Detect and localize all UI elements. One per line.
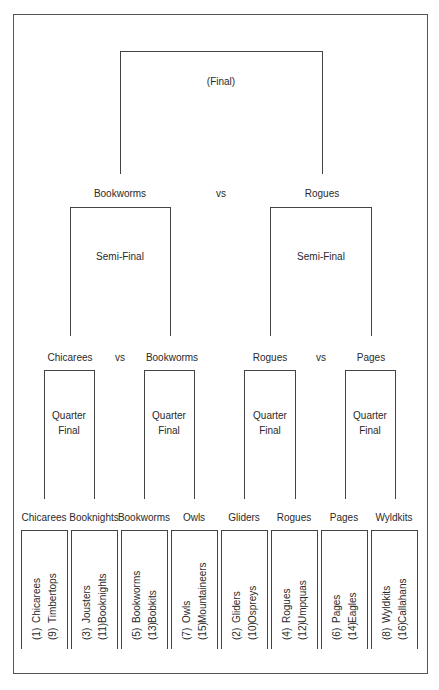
round1-winner-7: Pages — [330, 512, 358, 523]
round1-entry-8a: (8)Wyldkits — [379, 586, 395, 640]
quarter-label-3: QuarterFinal — [253, 408, 287, 438]
quarter-label-1: QuarterFinal — [52, 408, 86, 438]
round1-winner-4: Owls — [183, 512, 205, 523]
semi-bracket-left — [70, 207, 171, 336]
round1-entry-6a: (4)Rogues — [279, 589, 295, 640]
round1-entry-1a: (1)Chicarees — [29, 578, 45, 640]
quarter-label-4: QuarterFinal — [353, 408, 387, 438]
semi-left-team-b: Bookworms — [146, 352, 198, 363]
semi-bracket-right — [270, 207, 372, 336]
round1-entry-7a: (6)Pages — [329, 595, 345, 640]
round1-entry-2b: (11)Booknights — [95, 574, 111, 640]
final-vs: vs — [216, 188, 226, 199]
round1-entry-3b: (13)Bobkits — [145, 590, 161, 640]
semi-left-team-a: Chicarees — [47, 352, 92, 363]
round1-winner-1: Chicarees — [21, 512, 66, 523]
semi-right-vs: vs — [316, 352, 326, 363]
round1-entry-5b: (10)Ospreys — [245, 586, 261, 640]
round1-winner-6: Rogues — [277, 512, 311, 523]
round1-winner-2: Booknights — [69, 512, 118, 523]
semi-left-vs: vs — [115, 352, 125, 363]
semi-label-right: Semi-Final — [297, 251, 345, 262]
final-left-team: Bookworms — [94, 188, 146, 199]
final-bracket — [120, 51, 323, 174]
round1-winner-3: Bookworms — [118, 512, 170, 523]
round1-entry-3a: (5)Bookworms — [129, 571, 145, 640]
round1-entry-6b: (12)Umpquas — [295, 580, 311, 640]
semi-right-team-a: Rogues — [253, 352, 287, 363]
semi-label-left: Semi-Final — [96, 251, 144, 262]
round1-winner-5: Gliders — [228, 512, 260, 523]
round1-entry-1b: (9)Timbertops — [45, 573, 61, 640]
round1-entry-4a: (7)Owls — [179, 601, 195, 640]
round1-entry-8b: (16)Callahans — [395, 579, 411, 640]
round1-entry-2a: (3)Jousters — [79, 585, 95, 640]
final-label: (Final) — [207, 76, 235, 87]
round1-entry-5a: (2)Gliders — [229, 591, 245, 640]
round1-entry-7b: (14)Eagles — [345, 592, 361, 640]
semi-right-team-b: Pages — [357, 352, 385, 363]
quarter-label-2: QuarterFinal — [152, 408, 186, 438]
final-right-team: Rogues — [305, 188, 339, 199]
round1-winner-8: Wyldkits — [375, 512, 412, 523]
round1-entry-4b: (15)Mountaineers — [195, 562, 211, 640]
